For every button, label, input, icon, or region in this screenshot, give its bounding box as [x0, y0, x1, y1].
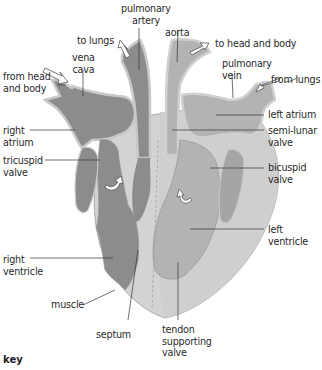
label-right-ventricle: right ventricle	[3, 254, 43, 277]
label-from-head-and-body: from head and body	[3, 71, 51, 94]
label-from-lungs: from lungs	[271, 74, 320, 86]
label-bicuspid-valve: bicuspid valve	[268, 162, 306, 185]
label-tricuspid-valve: tricuspid valve	[3, 155, 43, 178]
label-to-head-and-body: to head and body	[215, 38, 296, 50]
label-to-lungs: to lungs	[77, 35, 114, 47]
label-septum: septum	[96, 329, 131, 341]
label-tendon-supporting-valve: tendon supporting valve	[162, 324, 212, 359]
label-left-atrium: left atrium	[268, 109, 316, 121]
label-left-ventricle: left ventricle	[268, 224, 308, 247]
label-semi-lunar-valve: semi-lunar valve	[268, 125, 317, 148]
heart-diagram	[0, 0, 322, 370]
label-vena-cava: vena cava	[72, 52, 95, 75]
label-right-atrium: right atrium	[3, 125, 33, 148]
label-muscle: muscle	[51, 299, 84, 311]
label-pulmonary-vein: pulmonary vein	[222, 58, 272, 81]
label-aorta: aorta	[165, 27, 189, 39]
key-heading: key	[3, 354, 23, 365]
label-pulmonary-artery: pulmonary artery	[121, 3, 171, 26]
